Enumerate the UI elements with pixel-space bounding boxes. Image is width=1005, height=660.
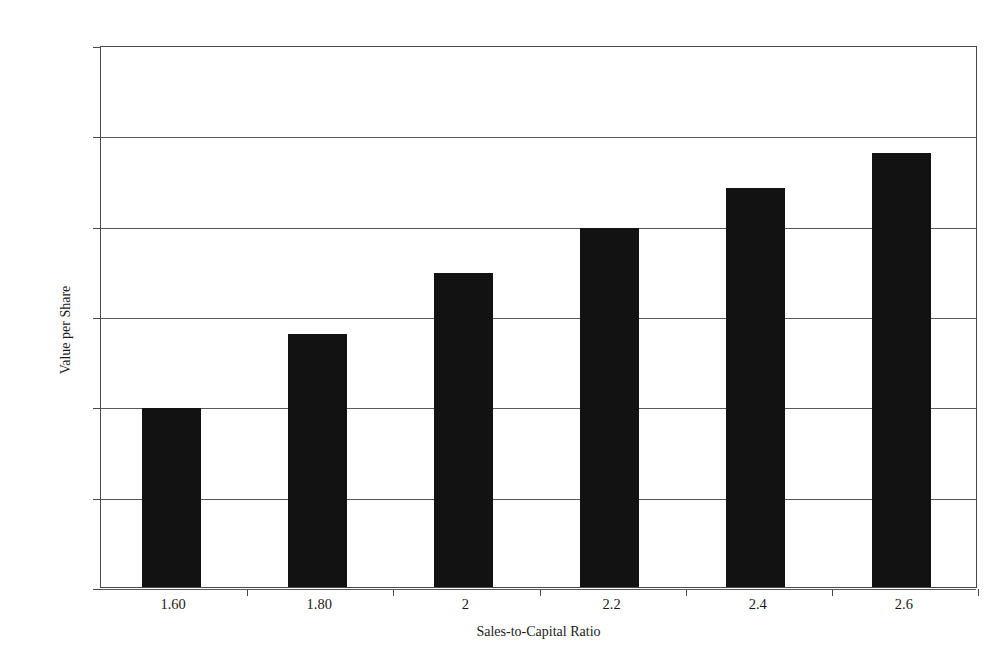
bar: [288, 334, 347, 587]
x-axis-tick-label: 2.4: [749, 596, 767, 613]
y-axis-tick: [93, 137, 101, 138]
x-axis-tick: [832, 589, 833, 596]
bars: [101, 47, 976, 587]
plot-area: [100, 46, 977, 588]
y-axis-tick: [93, 408, 101, 409]
x-axis-tick: [247, 589, 248, 596]
x-axis-tick-label: 2.6: [895, 596, 913, 613]
y-axis-tick: [93, 499, 101, 500]
y-axis-tick: [93, 318, 101, 319]
bar-chart: Value per Share $0.00$5.00$10.00$15.00$2…: [0, 0, 1005, 660]
x-axis-tick-label: 1.60: [160, 596, 185, 613]
x-axis-tick-label: 2.2: [603, 596, 621, 613]
y-axis-tick: [93, 228, 101, 229]
x-axis-tick: [393, 589, 394, 596]
x-axis-tick-labels: 1.601.8022.22.42.6: [100, 596, 977, 620]
x-axis-title: Sales-to-Capital Ratio: [100, 624, 977, 640]
y-axis-tick: [93, 47, 101, 48]
x-axis-tick-label: 2: [462, 596, 469, 613]
y-axis-title: Value per Share: [58, 286, 74, 375]
bar: [434, 273, 493, 587]
x-axis-tick: [540, 589, 541, 596]
bar: [872, 153, 931, 587]
gridline: [101, 589, 976, 590]
bar: [726, 188, 785, 587]
x-axis-tick-label: 1.80: [307, 596, 332, 613]
x-axis-tick: [686, 589, 687, 596]
y-axis-tick: [93, 589, 101, 590]
bar: [580, 228, 639, 587]
bar: [142, 408, 201, 587]
x-axis-tick: [978, 589, 979, 596]
